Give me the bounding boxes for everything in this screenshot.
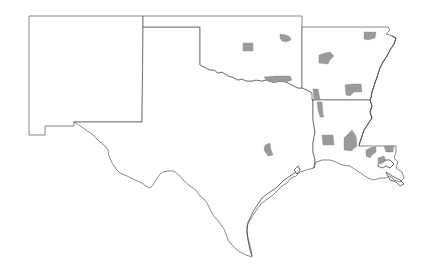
map-container: [0, 0, 431, 269]
county-ok-west: [243, 43, 253, 51]
state-new-mexico: [29, 16, 143, 135]
county-la-west-central: [322, 135, 334, 145]
county-la-northeast: [384, 146, 394, 152]
region-map: [0, 0, 431, 269]
